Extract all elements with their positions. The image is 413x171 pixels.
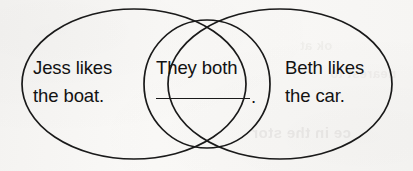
left-circle-label-line-2: the boat. [33, 82, 112, 110]
center-overlap-label-line-1: They both [156, 54, 237, 82]
left-circle-label: Jess likes the boat. [33, 54, 112, 110]
left-circle-label-line-1: Jess likes [33, 54, 112, 82]
right-circle-label-line-1: Beth likes [285, 54, 364, 82]
right-circle-label-line-2: the car. [285, 82, 364, 110]
blank-answer-line[interactable] [156, 98, 250, 99]
center-circle-outline [144, 20, 270, 148]
right-circle-label: Beth likes the car. [285, 54, 364, 110]
center-overlap-label: They both [156, 54, 237, 82]
blank-answer-period: . [251, 87, 256, 107]
venn-diagram-worksheet: ce in the stor ok at nearest to Jess lik… [0, 0, 413, 171]
